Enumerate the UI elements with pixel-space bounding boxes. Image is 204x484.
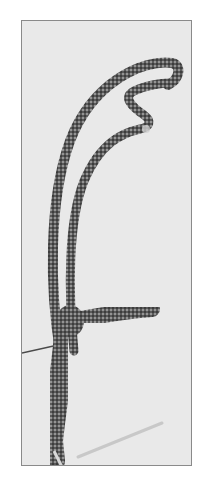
crochet-hook [78,423,162,457]
crochet-cord-photo [22,21,192,466]
cord-stem [52,321,66,461]
photo-frame [21,20,192,466]
curl-tip [142,125,150,133]
cord-junction [56,305,84,337]
